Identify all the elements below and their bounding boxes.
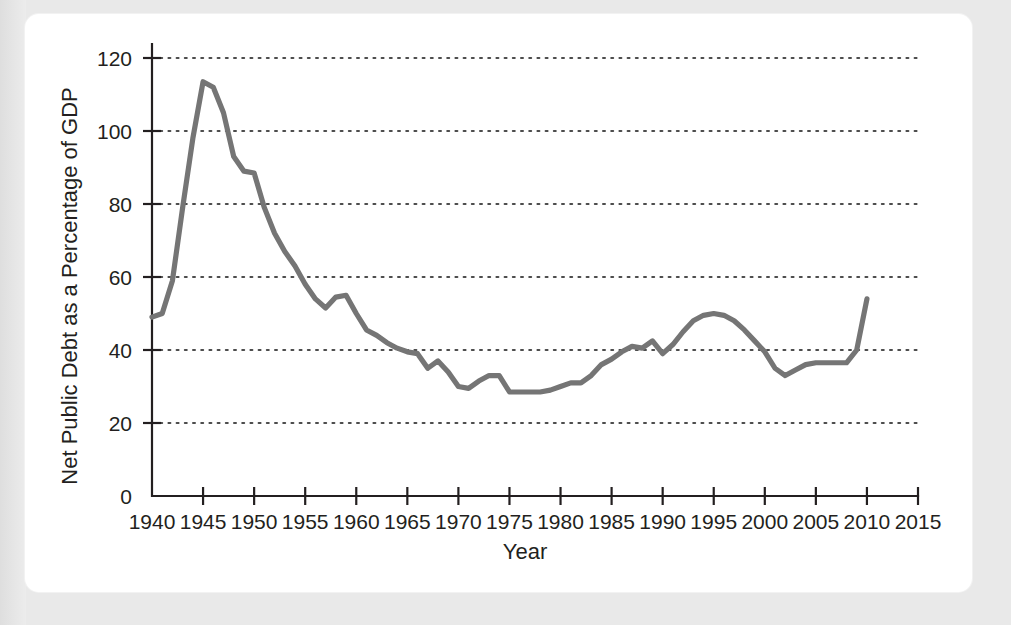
- y-tick-label-0: 0: [120, 485, 132, 508]
- page-edge-shading: [0, 0, 26, 625]
- y-tick-label-120: 120: [97, 47, 132, 70]
- x-tick-label-1965: 1965: [384, 510, 431, 533]
- axis-lines-path: [152, 44, 918, 496]
- x-tick-label-1950: 1950: [231, 510, 278, 533]
- x-tick-label-1985: 1985: [588, 510, 635, 533]
- x-tick-label-2005: 2005: [793, 510, 840, 533]
- series-line-0: [152, 82, 867, 392]
- figure-card: 1940194519501955196019651970197519801985…: [25, 14, 972, 592]
- x-tick-label-1980: 1980: [537, 510, 584, 533]
- x-tick-label-1940: 1940: [129, 510, 176, 533]
- line-chart: 1940194519501955196019651970197519801985…: [25, 14, 972, 592]
- data-series: [152, 82, 867, 392]
- x-tick-label-1945: 1945: [180, 510, 227, 533]
- y-tick-label-100: 100: [97, 120, 132, 143]
- y-axis-title: Net Public Debt as a Percentage of GDP: [57, 87, 82, 484]
- x-tick-label-1960: 1960: [333, 510, 380, 533]
- y-tick-label-80: 80: [109, 193, 132, 216]
- x-tick-label-2015: 2015: [895, 510, 942, 533]
- x-tick-label-2010: 2010: [844, 510, 891, 533]
- x-tick-labels: 1940194519501955196019651970197519801985…: [129, 510, 942, 533]
- chart-svg: 1940194519501955196019651970197519801985…: [25, 14, 972, 592]
- x-tick-label-1955: 1955: [282, 510, 329, 533]
- axis-ticks: [143, 58, 918, 505]
- page-background: 1940194519501955196019651970197519801985…: [0, 0, 1011, 625]
- axis-lines: [152, 44, 918, 496]
- y-tick-labels: 020406080100120: [97, 47, 132, 508]
- x-tick-label-1975: 1975: [486, 510, 533, 533]
- y-tick-label-20: 20: [109, 412, 132, 435]
- x-tick-label-1995: 1995: [690, 510, 737, 533]
- y-tick-label-40: 40: [109, 339, 132, 362]
- x-tick-label-2000: 2000: [741, 510, 788, 533]
- x-tick-label-1990: 1990: [639, 510, 686, 533]
- y-tick-label-60: 60: [109, 266, 132, 289]
- x-tick-label-1970: 1970: [435, 510, 482, 533]
- x-axis-title: Year: [503, 539, 547, 564]
